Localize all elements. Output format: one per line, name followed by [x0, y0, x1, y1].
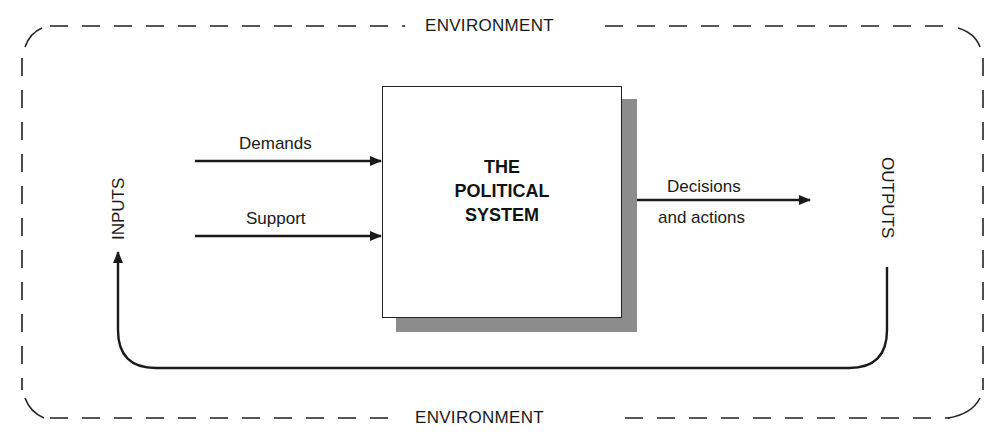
environment-label-top: ENVIRONMENT [413, 16, 566, 36]
env-corner-br [948, 398, 980, 418]
demands-label: Demands [239, 134, 312, 154]
support-label: Support [246, 209, 306, 229]
env-corner-tr [958, 28, 980, 47]
decisions-label: Decisions [667, 177, 741, 197]
system-title-line-2: POLITICAL [455, 179, 550, 203]
system-title-line-3: SYSTEM [455, 203, 550, 227]
env-corner-tl [25, 28, 42, 47]
env-corner-bl [25, 398, 44, 418]
political-system-box: THE POLITICAL SYSTEM [382, 86, 622, 318]
system-title: THE POLITICAL SYSTEM [455, 155, 550, 227]
inputs-label: INPUTS [109, 178, 129, 240]
system-title-line-1: THE [455, 155, 550, 179]
outputs-label: OUTPUTS [877, 157, 897, 238]
environment-label-bottom: ENVIRONMENT [403, 408, 556, 428]
and-actions-label: and actions [658, 208, 745, 228]
political-system-diagram: ENVIRONMENT ENVIRONMENT Demands Support … [0, 0, 998, 442]
